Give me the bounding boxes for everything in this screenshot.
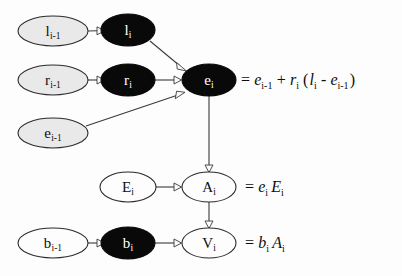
edge-e-cur-to-a-cur	[205, 96, 213, 173]
node-label-b-cur: bi	[123, 236, 133, 251]
diagram-canvas: li-1 li ri-1 ri ei ei-1 Ei Ai bi-1 bi Vi…	[0, 0, 402, 276]
node-label-E-cur: Ei	[122, 180, 134, 195]
equation-e-cur: = ei-1 + ri (li - ei-1)	[240, 72, 356, 88]
node-label-A-cur: Ai	[202, 180, 216, 195]
equation-a-cur: = ei Ei	[244, 179, 284, 195]
edge-a-cur-to-v-cur	[205, 202, 213, 229]
node-label-V-cur: Vi	[202, 236, 216, 251]
edge-l-cur-to-e-cur	[150, 41, 187, 71]
node-label-l-cur: li	[124, 23, 131, 38]
node-label-e-cur: ei	[204, 73, 214, 88]
node-label-r-cur: ri	[124, 73, 132, 88]
node-label-b-prev: bi-1	[44, 236, 62, 251]
edge-r-cur-to-e-cur	[155, 76, 182, 84]
edge-b-cur-to-v-cur	[155, 239, 182, 247]
edge-layer	[86, 27, 213, 247]
edge-e-prev-to-e-cur	[86, 91, 185, 126]
node-label-r-prev: ri-1	[45, 73, 61, 88]
equation-v-cur: = bi Ai	[244, 235, 285, 251]
node-label-e-prev: ei-1	[44, 126, 61, 141]
node-label-l-prev: li-1	[46, 24, 61, 39]
edge-e-node-to-a-cur	[156, 183, 182, 191]
